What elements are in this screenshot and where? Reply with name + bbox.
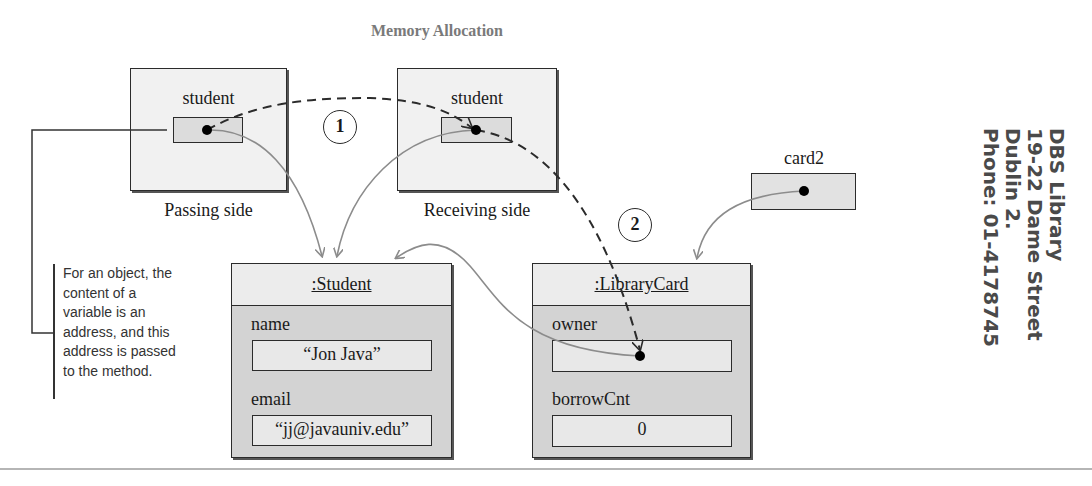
passing-side-caption: Passing side (130, 200, 287, 221)
annotation-line: to the method. (63, 362, 176, 382)
step-2-marker: 2 (618, 208, 652, 242)
student-object: :Student name “Jon Java” email “jj@javau… (231, 263, 452, 458)
librarycard-borrowcnt-label: borrowCnt (552, 389, 630, 410)
student-object-header: :Student (232, 264, 451, 306)
annotation-line: variable is an (63, 303, 176, 323)
passing-student-variable (173, 117, 243, 143)
librarycard-object: :LibraryCard owner borrowCnt 0 (532, 263, 751, 458)
receiving-side-caption: Receiving side (397, 200, 557, 221)
annotation-line: address, and this (63, 323, 176, 343)
sidebar-line: DBS Library (1046, 128, 1068, 347)
step-1-marker: 1 (323, 110, 357, 144)
student-name-label: name (251, 314, 290, 335)
librarycard-object-header: :LibraryCard (533, 264, 750, 306)
librarycard-owner-value (552, 340, 732, 372)
sidebar-note: DBS Library 19-22 Dame Street Dublin 2. … (980, 128, 1068, 347)
sidebar-line: Phone: 01-4178745 (980, 128, 1002, 347)
card2-variable (751, 173, 856, 210)
student-email-label: email (251, 389, 291, 410)
student-name-value: “Jon Java” (252, 340, 432, 371)
annotation-line: For an object, the (63, 264, 176, 284)
sidebar-line: 19-22 Dame Street (1024, 128, 1046, 347)
student-email-value: “jj@javauniv.edu” (252, 415, 432, 446)
card2-label: card2 (751, 148, 857, 169)
passing-student-label: student (130, 88, 287, 109)
diagram-title-text: Memory Allocation (371, 22, 503, 40)
annotation-note: For an object, the content of a variable… (63, 264, 176, 381)
annotation-line: content of a (63, 284, 176, 304)
receiving-student-variable (441, 117, 512, 143)
receiving-student-label: student (397, 88, 557, 109)
librarycard-borrowcnt-value: 0 (552, 415, 732, 447)
annotation-bar (53, 264, 55, 399)
annotation-line: address is passed (63, 342, 176, 362)
librarycard-owner-label: owner (552, 314, 597, 335)
bottom-divider (0, 468, 1092, 470)
sidebar-line: Dublin 2. (1002, 128, 1024, 347)
memory-allocation-diagram: Memory Allocation student Passing side s… (0, 0, 1092, 486)
